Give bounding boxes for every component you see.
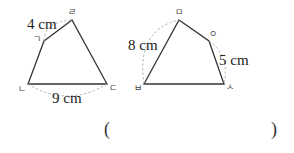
answer-blank[interactable] xyxy=(115,120,265,140)
answer-close-paren: ) xyxy=(271,120,277,138)
vertex-label-ieung: ㅇ xyxy=(209,30,217,39)
vertex-label-rieul: ㄹ xyxy=(68,8,76,17)
vertex-label-nieun: ㄴ xyxy=(18,85,26,94)
vertex-label-bieup: ㅂ xyxy=(134,84,142,93)
vertex-label-giyeok: ㄱ xyxy=(33,35,41,44)
vertex-label-siot: ㅅ xyxy=(226,83,234,92)
answer-open-paren: ( xyxy=(104,120,110,138)
measure-label-8cm: 8 cm xyxy=(128,38,158,53)
vertex-label-mieum: ㅁ xyxy=(175,8,183,17)
measure-label-4cm: 4 cm xyxy=(27,17,57,32)
measure-label-5cm: 5 cm xyxy=(219,53,249,68)
vertex-label-digeut: ㄷ xyxy=(109,84,117,93)
measure-label-9cm: 9 cm xyxy=(52,91,82,106)
